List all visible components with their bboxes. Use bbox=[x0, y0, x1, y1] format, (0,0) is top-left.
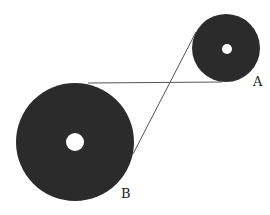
belt-segment-straight bbox=[88, 82, 222, 83]
pulley-b bbox=[16, 83, 134, 201]
pulley-a bbox=[192, 14, 260, 82]
pulley-a-hole bbox=[222, 44, 232, 54]
pulley-b-label: B bbox=[121, 186, 131, 201]
belt-segment-crossed bbox=[133, 32, 196, 154]
pulley-a-label: A bbox=[252, 74, 263, 89]
belt-drive-diagram: A B bbox=[0, 0, 270, 215]
pulley-b-hole bbox=[66, 133, 84, 151]
